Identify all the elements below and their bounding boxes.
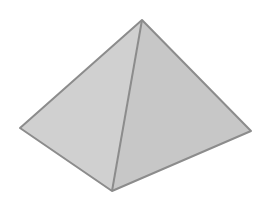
diagram-canvas (0, 0, 269, 207)
pyramid-figure (0, 0, 269, 207)
